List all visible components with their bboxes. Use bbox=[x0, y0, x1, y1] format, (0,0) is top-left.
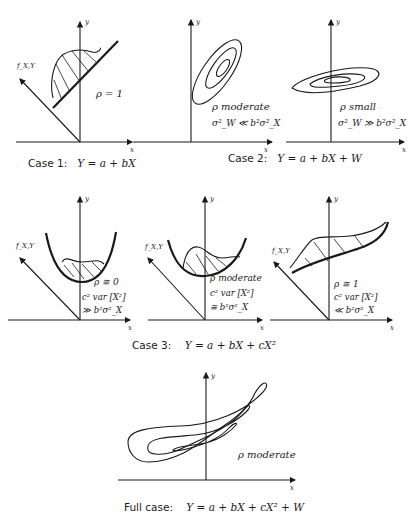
case3b-rho: ρ moderate bbox=[210, 273, 262, 283]
case3a-rho: ρ ≅ 0 bbox=[94, 277, 119, 287]
case2-caption: Case 2: Y = a + bX + W bbox=[228, 152, 362, 164]
case3a-cond2: ≫ b²σ²_X bbox=[82, 305, 122, 315]
case3a-cond1: c² var [X²] bbox=[82, 292, 126, 302]
case1-panel bbox=[16, 22, 132, 142]
case2b-y-label: y bbox=[336, 18, 340, 26]
full-caption: Full case: Y = a + bX + cX² + W bbox=[124, 501, 304, 513]
case2a-y-label: y bbox=[196, 18, 200, 26]
case2a-rho: ρ moderate bbox=[212, 101, 270, 112]
case3b-cond1: c² var [X²] bbox=[210, 288, 254, 298]
case1-rho: ρ = 1 bbox=[96, 88, 123, 99]
full-case-panel bbox=[118, 373, 295, 480]
case3a-f-label: f_X,Y bbox=[16, 242, 34, 250]
case2b-condition: σ²_W ≫ b²σ²_X bbox=[338, 118, 406, 128]
case3a-y-label: y bbox=[85, 195, 89, 203]
case1-caption: Case 1: Y = a + bX bbox=[28, 157, 136, 169]
case3c-cond2: ≪ b²σ²_X bbox=[334, 305, 374, 315]
case2a-condition: σ²_W ≪ b²σ²_X bbox=[212, 118, 280, 128]
case3b-f-label: f_X,Y bbox=[145, 243, 163, 251]
case3b-cond2: ≅ b²σ²_X bbox=[210, 302, 248, 312]
case2b-x-label: x bbox=[402, 146, 406, 154]
case3a-x-label: x bbox=[128, 324, 132, 332]
case3c-f-label: f_X,Y bbox=[272, 247, 290, 255]
case3b-x-label: x bbox=[260, 324, 264, 332]
case3c-cond1: c² var [X²] bbox=[334, 292, 378, 302]
case3b-y-label: y bbox=[210, 195, 214, 203]
full-rho: ρ moderate bbox=[238, 449, 296, 460]
full-x-label: x bbox=[290, 484, 294, 492]
case3c-x-label: x bbox=[390, 324, 394, 332]
case1-x-label: x bbox=[130, 146, 134, 154]
hatching bbox=[54, 51, 96, 100]
case3c-rho: ρ ≅ 1 bbox=[334, 279, 359, 289]
full-y-label: y bbox=[211, 372, 215, 380]
case1-f-label: f_X,Y bbox=[17, 62, 35, 70]
case1-y-label: y bbox=[85, 18, 89, 26]
diagram-canvas bbox=[0, 0, 410, 523]
case2b-rho: ρ small bbox=[340, 101, 376, 112]
case3c-y-label: y bbox=[334, 195, 338, 203]
case3-caption: Case 3: Y = a + bX + cX² bbox=[132, 339, 276, 351]
